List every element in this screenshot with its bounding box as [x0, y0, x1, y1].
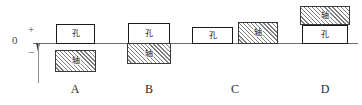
tolerance-zone-diagram: 0 + − 孔轴孔轴孔轴轴孔 ABCD [0, 0, 362, 105]
hole-glyph-label: 孔 [144, 30, 154, 38]
hole-tolerance-zone: 孔 [192, 27, 233, 44]
hole-tolerance-zone: 孔 [56, 24, 95, 44]
hole-glyph-label: 孔 [71, 30, 81, 38]
axis-negative-sign: − [28, 47, 34, 58]
shaft-glyph-label: 轴 [144, 50, 154, 58]
shaft-tolerance-zone: 轴 [300, 6, 350, 25]
shaft-glyph-label: 轴 [253, 29, 263, 37]
shaft-glyph-label: 轴 [320, 12, 330, 20]
origin-direction-arrow-icon [36, 43, 41, 83]
axis-zero-label: 0 [12, 35, 18, 46]
shaft-tolerance-zone: 轴 [127, 43, 171, 64]
hole-glyph-label: 孔 [320, 31, 330, 39]
shaft-tolerance-zone: 轴 [238, 22, 278, 44]
group-caption-a: A [55, 82, 95, 97]
hole-tolerance-zone: 孔 [128, 23, 170, 44]
axis-positive-sign: + [28, 24, 34, 35]
group-caption-c: C [215, 82, 255, 97]
hole-glyph-label: 孔 [208, 32, 218, 40]
group-caption-b: B [129, 82, 169, 97]
hole-tolerance-zone: 孔 [302, 25, 348, 44]
arrow-shaft-line [38, 43, 39, 83]
group-caption-d: D [305, 82, 345, 97]
shaft-tolerance-zone: 轴 [55, 50, 96, 72]
shaft-glyph-label: 轴 [71, 57, 81, 65]
